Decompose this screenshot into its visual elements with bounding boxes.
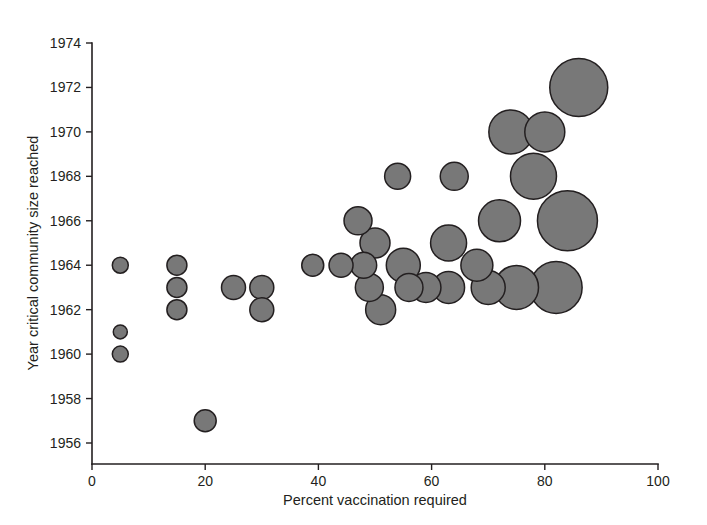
y-tick-label: 1964 bbox=[50, 257, 81, 273]
y-tick-label: 1974 bbox=[50, 35, 81, 51]
data-bubble bbox=[250, 275, 274, 299]
data-points-layer bbox=[112, 58, 607, 431]
y-tick-label: 1966 bbox=[50, 213, 81, 229]
x-axis-ticks: 020406080100 bbox=[88, 464, 670, 489]
y-tick-label: 1962 bbox=[50, 302, 81, 318]
data-bubble bbox=[112, 346, 128, 362]
x-tick-label: 60 bbox=[424, 473, 440, 489]
y-axis-ticks: 1956195819601962196419661968197019721974 bbox=[50, 35, 92, 451]
data-bubble bbox=[385, 163, 411, 189]
y-tick-label: 1970 bbox=[50, 124, 81, 140]
x-tick-label: 20 bbox=[197, 473, 213, 489]
y-tick-label: 1968 bbox=[50, 168, 81, 184]
data-bubble bbox=[329, 253, 353, 277]
data-bubble bbox=[525, 112, 565, 152]
data-bubble bbox=[510, 153, 556, 199]
data-bubble bbox=[194, 410, 216, 432]
y-tick-label: 1972 bbox=[50, 79, 81, 95]
data-bubble bbox=[222, 275, 246, 299]
x-tick-label: 40 bbox=[311, 473, 327, 489]
y-tick-label: 1958 bbox=[50, 391, 81, 407]
y-tick-label: 1956 bbox=[50, 435, 81, 451]
data-bubble bbox=[167, 300, 187, 320]
y-axis-title: Year critical community size reached bbox=[25, 136, 41, 371]
x-tick-label: 100 bbox=[646, 473, 670, 489]
data-bubble bbox=[431, 225, 467, 261]
data-bubble bbox=[479, 200, 521, 242]
data-bubble bbox=[461, 249, 493, 281]
data-bubble bbox=[302, 254, 324, 276]
x-axis-title: Percent vaccination required bbox=[283, 492, 467, 508]
data-bubble bbox=[250, 298, 274, 322]
x-tick-label: 80 bbox=[537, 473, 553, 489]
data-bubble bbox=[395, 273, 423, 301]
data-bubble bbox=[112, 257, 128, 273]
data-bubble bbox=[167, 255, 187, 275]
data-bubble bbox=[167, 277, 187, 297]
bubble-chart: 1956195819601962196419661968197019721974… bbox=[0, 0, 707, 525]
chart-canvas: 1956195819601962196419661968197019721974… bbox=[0, 0, 707, 525]
data-bubble bbox=[344, 207, 372, 235]
data-bubble bbox=[550, 58, 608, 116]
data-bubble bbox=[351, 252, 377, 278]
data-bubble bbox=[113, 325, 127, 339]
data-bubble bbox=[440, 162, 468, 190]
y-tick-label: 1960 bbox=[50, 346, 81, 362]
data-bubble bbox=[537, 191, 597, 251]
x-tick-label: 0 bbox=[88, 473, 96, 489]
